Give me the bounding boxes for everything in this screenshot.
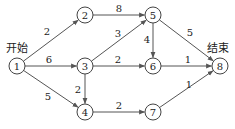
edge-weight-1-3: 6: [46, 54, 52, 65]
node-2: 2: [77, 7, 93, 23]
node-1: 1: [9, 58, 25, 74]
end-label: 结束: [207, 42, 229, 55]
edge-weight-5-8: 5: [187, 27, 193, 38]
edge-weight-3-4: 2: [75, 84, 81, 95]
node-label: 5: [150, 10, 156, 21]
node-8: 8: [212, 58, 228, 74]
edge-weight-7-8: 1: [186, 79, 192, 90]
node-3: 3: [77, 58, 93, 74]
start-label: 开始: [6, 41, 28, 55]
node-label: 3: [82, 61, 88, 72]
edge-weight-1-4: 5: [45, 91, 51, 102]
node-label: 1: [14, 61, 20, 72]
node-label: 4: [82, 107, 88, 118]
edge-weight-6-8: 1: [185, 54, 191, 65]
node-6: 6: [145, 58, 161, 74]
node-5: 5: [145, 7, 161, 23]
node-label: 6: [150, 61, 156, 72]
network-diagram: 265832245121 12345678 开始 结束: [0, 0, 235, 129]
node-label: 2: [82, 10, 88, 21]
edge-weight-1-2: 2: [44, 26, 50, 37]
edge-weight-3-6: 2: [115, 54, 121, 65]
edge-weight-4-7: 2: [116, 100, 122, 111]
node-4: 4: [77, 104, 93, 120]
node-label: 7: [150, 107, 156, 118]
edge-weight-5-6: 4: [144, 34, 150, 45]
node-label: 8: [217, 61, 223, 72]
edge-weight-2-5: 8: [116, 3, 122, 14]
edge-1-4: [24, 70, 78, 107]
node-7: 7: [145, 104, 161, 120]
edge-weight-3-5: 3: [115, 28, 121, 39]
edges-group: 265832245121: [23, 3, 213, 113]
